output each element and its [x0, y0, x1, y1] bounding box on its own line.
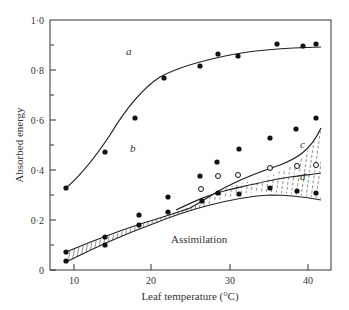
x-axis-label: Leaf temperature (°C) [141, 290, 239, 303]
label-d: d [300, 170, 306, 182]
label-c: c [300, 138, 305, 150]
label-assimilation: Assimilation [171, 233, 228, 245]
y-axis [50, 45, 56, 270]
curve-assimilation [66, 195, 321, 262]
label-a: a [126, 45, 132, 57]
y-axis-label: Absorbed energy [13, 107, 25, 183]
markers-a [63, 41, 318, 190]
x-tick-10: 10 [69, 275, 79, 286]
x-tick-20: 20 [146, 275, 156, 286]
x-tick-30: 30 [225, 275, 235, 286]
y-tick-0.6: 0·6 [31, 115, 44, 126]
y-tick-0.8: 0·8 [31, 65, 44, 76]
x-tick-labels: 10 20 30 40 [69, 275, 313, 286]
chart: 0 0·2 0·4 0·6 0·8 1·0 10 20 30 40 Leaf t… [0, 0, 349, 310]
label-b: b [130, 142, 136, 154]
x-tick-40: 40 [303, 275, 313, 286]
y-tick-1.0: 1·0 [31, 15, 44, 26]
x-axis [74, 264, 308, 270]
y-tick-0: 0 [39, 265, 44, 276]
y-tick-labels: 0 0·2 0·4 0·6 0·8 1·0 [31, 15, 44, 276]
band-b [66, 202, 205, 262]
y-tick-0.2: 0·2 [31, 215, 44, 226]
y-tick-0.4: 0·4 [31, 165, 44, 176]
markers-assimilation [63, 185, 318, 263]
curve-a [66, 47, 321, 188]
